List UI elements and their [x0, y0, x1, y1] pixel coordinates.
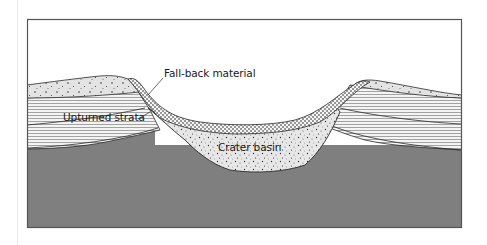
upturned-strata-label: Upturned strata — [63, 112, 145, 123]
fall-back-material-label: Fall-back material — [164, 68, 255, 79]
crater-basin-label: Crater basin — [218, 142, 281, 153]
